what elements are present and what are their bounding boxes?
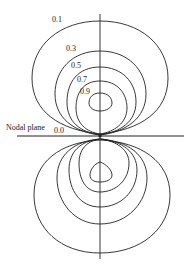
nodal-plane-label: Nodal plane: [6, 124, 45, 132]
contour-label-0.7: 0.7: [77, 76, 87, 84]
nucleus-dot: [98, 134, 101, 137]
contour-label-0.5: 0.5: [71, 62, 81, 70]
lower-contour-0.1: [34, 140, 170, 253]
nodal-value-label: 0.0: [54, 127, 64, 135]
orbital-diagram: [0, 0, 194, 272]
upper-contour-0.9: [89, 93, 112, 111]
lower-contour-0.9: [90, 162, 112, 182]
contour-label-0.1: 0.1: [52, 16, 62, 24]
lower-contour-0.5: [69, 139, 137, 207]
contour-label-0.3: 0.3: [66, 45, 76, 53]
contour-label-0.9: 0.9: [80, 88, 90, 96]
lower-contour-0.7: [79, 139, 129, 192]
